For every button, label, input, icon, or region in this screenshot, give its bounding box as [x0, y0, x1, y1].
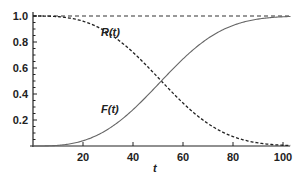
- r-curve-label: R(t): [101, 26, 120, 38]
- f-curve: [33, 16, 291, 146]
- x-tick-label: 20: [77, 151, 89, 163]
- x-axis-label: t: [153, 162, 158, 174]
- x-ticks: 20406080100: [77, 142, 292, 163]
- x-tick-label: 40: [127, 151, 139, 163]
- y-tick-label: 1.0: [13, 10, 28, 22]
- x-tick-label: 80: [227, 151, 239, 163]
- y-tick-label: 0.2: [13, 114, 28, 126]
- reliability-chart: 0.20.40.60.81.0 20406080100 R(t) F(t) t: [0, 0, 306, 177]
- f-curve-label: F(t): [101, 103, 119, 115]
- y-ticks: 0.20.40.60.81.0: [13, 10, 37, 140]
- y-tick-label: 0.8: [13, 36, 28, 48]
- x-tick-label: 100: [274, 151, 292, 163]
- y-tick-label: 0.4: [13, 88, 29, 100]
- y-tick-label: 0.6: [13, 62, 28, 74]
- x-tick-label: 60: [177, 151, 189, 163]
